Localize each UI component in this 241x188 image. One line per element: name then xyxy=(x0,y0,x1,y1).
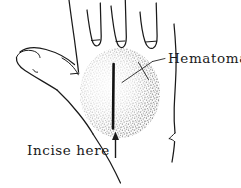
hand-diagram-svg: Hematoma Incise here xyxy=(0,0,241,188)
stippled-hematoma-oval xyxy=(78,46,162,140)
palm-right-edge xyxy=(169,24,176,162)
thumb xyxy=(16,48,79,90)
medical-illustration-figure: Hematoma Incise here Hematoma Incise her… xyxy=(0,0,241,188)
middle-finger xyxy=(87,3,101,46)
incision-line xyxy=(113,64,114,129)
incise-here-label: Incise here xyxy=(27,142,110,158)
little-finger xyxy=(140,3,157,48)
hematoma-label: Hematoma xyxy=(168,50,241,66)
ring-finger xyxy=(111,0,126,48)
